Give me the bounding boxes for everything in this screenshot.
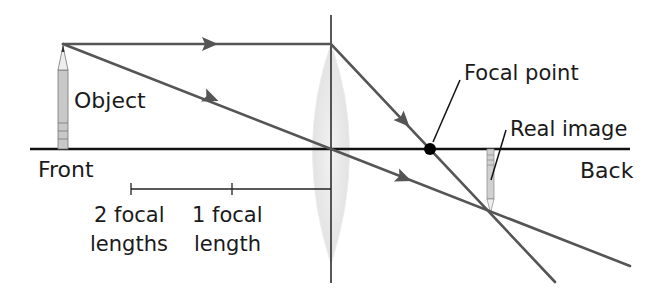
focal-point-label: Focal point (464, 61, 579, 85)
lens-diagram: Object Front Back Focal point Real image… (0, 0, 652, 305)
one-focal-length-label-line1: 1 focal (192, 203, 263, 227)
back-label: Back (580, 158, 634, 183)
two-focal-lengths-label-line2: lengths (90, 232, 168, 256)
object-label: Object (74, 88, 146, 113)
front-label: Front (38, 157, 94, 182)
focal-length-scale (131, 183, 331, 195)
focal-point-dot (424, 143, 436, 155)
ray-arrowheads (201, 37, 415, 187)
real-image-label: Real image (510, 117, 627, 141)
real-image-pencil (487, 149, 494, 213)
two-focal-lengths-label-line1: 2 focal (94, 203, 165, 227)
object-pencil (58, 44, 68, 149)
one-focal-length-label-line2: length (194, 232, 261, 256)
focal-point-leader (433, 80, 460, 142)
arrow-icon (394, 169, 414, 188)
